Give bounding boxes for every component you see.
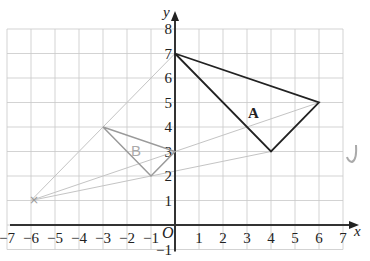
x-tick-label: −2: [119, 230, 135, 246]
x-tick-label: −4: [71, 230, 87, 246]
x-tick-label: 6: [315, 230, 323, 246]
y-tick-label: 5: [165, 95, 173, 111]
x-tick-label: 3: [243, 230, 251, 246]
y-tick-label: 8: [165, 21, 173, 37]
y-axis-label: y: [161, 4, 170, 20]
origin-label: O: [162, 224, 174, 241]
y-tick-label: 2: [165, 168, 173, 184]
check-mark-icon: [347, 145, 356, 162]
x-axis-label: x: [353, 223, 361, 239]
x-tick-label: −7: [0, 230, 15, 246]
x-tick-label: 4: [267, 230, 275, 246]
x-tick-label: −5: [47, 230, 63, 246]
y-tick-label: 6: [165, 70, 173, 86]
centre-cross-icon: ×: [29, 193, 39, 207]
x-tick-label: 5: [291, 230, 299, 246]
axes: [10, 11, 359, 252]
y-tick-label: 1: [165, 193, 173, 209]
y-tick-label: 3: [165, 144, 173, 160]
x-tick-label: −3: [95, 230, 111, 246]
x-tick-label: 2: [219, 230, 227, 246]
y-tick-label: −1: [156, 242, 172, 258]
label-a: A: [248, 105, 259, 121]
x-tick-label: −6: [23, 230, 39, 246]
coordinate-diagram: −7−6−5−4−3−2−11234567−112345678 A B × y …: [0, 0, 370, 261]
label-b: B: [131, 142, 141, 159]
y-tick-label: 4: [165, 119, 173, 135]
x-tick-label: 1: [195, 230, 203, 246]
x-tick-label: 7: [339, 230, 347, 246]
y-tick-label: 7: [165, 46, 173, 62]
